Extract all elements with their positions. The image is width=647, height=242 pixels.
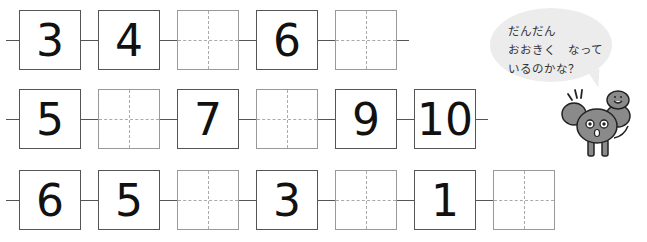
number-value: 4 (99, 11, 159, 69)
number-value: 9 (336, 90, 396, 148)
number-box: 1 (414, 170, 476, 230)
number-box: 6 (19, 170, 81, 230)
speech-bubble-text: だんだん おおきく なって いるのかな？ (508, 22, 603, 79)
poodle-with-bird-icon (560, 88, 640, 164)
guide-line-horizontal (99, 119, 159, 120)
number-value: 6 (20, 171, 80, 229)
number-value: 10 (415, 90, 475, 148)
number-box: 5 (19, 89, 81, 149)
number-box: 9 (335, 89, 397, 149)
number-box: 5 (98, 170, 160, 230)
bubble-line-1: だんだん (508, 24, 556, 38)
guide-line-horizontal (336, 200, 396, 201)
guide-line-horizontal (494, 200, 554, 201)
answer-box[interactable] (493, 170, 555, 230)
answer-box[interactable] (177, 170, 239, 230)
number-value: 6 (257, 11, 317, 69)
number-value: 3 (257, 171, 317, 229)
number-value: 3 (20, 11, 80, 69)
number-box: 7 (177, 89, 239, 149)
number-box: 3 (19, 10, 81, 70)
bubble-line-2: おおきく なって (508, 43, 603, 57)
bubble-line-3: いるのかな？ (508, 62, 580, 76)
number-value: 7 (178, 90, 238, 148)
number-box: 4 (98, 10, 160, 70)
guide-line-horizontal (336, 40, 396, 41)
answer-box[interactable] (335, 170, 397, 230)
answer-box[interactable] (177, 10, 239, 70)
guide-line-horizontal (257, 119, 317, 120)
number-box: 10 (414, 89, 476, 149)
guide-line-horizontal (178, 200, 238, 201)
guide-line-horizontal (178, 40, 238, 41)
number-value: 5 (20, 90, 80, 148)
number-box: 6 (256, 10, 318, 70)
answer-box[interactable] (256, 89, 318, 149)
number-value: 5 (99, 171, 159, 229)
number-box: 3 (256, 170, 318, 230)
answer-box[interactable] (98, 89, 160, 149)
number-value: 1 (415, 171, 475, 229)
answer-box[interactable] (335, 10, 397, 70)
